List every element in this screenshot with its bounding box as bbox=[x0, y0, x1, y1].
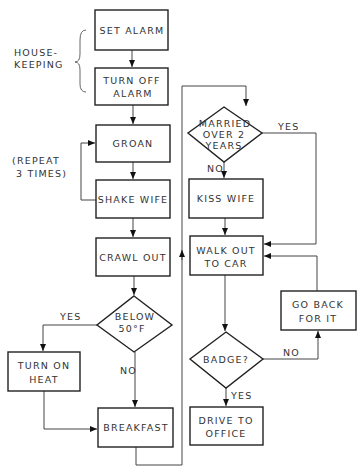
flowchart: HOUSE- KEEPING (REPEAT 3 TIMES) SET ALAR… bbox=[0, 0, 364, 474]
repeat-annotation: (REPEAT 3 TIMES) bbox=[12, 155, 67, 179]
node-kiss-wife: KISS WIFE bbox=[189, 179, 263, 218]
svg-text:BREAKFAST: BREAKFAST bbox=[103, 422, 169, 433]
decision-married: MARRIED OVER 2 YEARS bbox=[188, 107, 262, 162]
node-drive-to-office: DRIVE TO OFFICE bbox=[190, 407, 263, 445]
node-go-back: GO BACK FOR IT bbox=[281, 291, 356, 330]
node-groan: GROAN bbox=[96, 125, 170, 162]
svg-text:BADGE?: BADGE? bbox=[203, 354, 249, 365]
svg-text:OFFICE: OFFICE bbox=[205, 428, 246, 439]
svg-text:CRAWL OUT: CRAWL OUT bbox=[99, 252, 167, 263]
decision-badge: BADGE? bbox=[190, 332, 263, 388]
svg-text:WALK OUT: WALK OUT bbox=[196, 245, 256, 256]
svg-text:TURN ON: TURN ON bbox=[17, 360, 70, 371]
label-below-no: NO bbox=[120, 365, 137, 376]
node-set-alarm: SET ALARM bbox=[95, 10, 168, 50]
svg-text:50°F: 50°F bbox=[118, 323, 145, 334]
housekeeping-annotation: HOUSE- KEEPING bbox=[14, 30, 86, 92]
label-below-yes: YES bbox=[59, 311, 81, 322]
svg-text:OVER 2: OVER 2 bbox=[203, 129, 246, 140]
housekeeping-label-2: KEEPING bbox=[14, 59, 64, 70]
label-married-no: NO bbox=[207, 163, 224, 174]
svg-text:GO BACK: GO BACK bbox=[292, 299, 344, 310]
svg-text:BELOW: BELOW bbox=[115, 311, 155, 322]
repeat-label-2: 3 TIMES) bbox=[16, 168, 67, 179]
decision-below-50f: BELOW 50°F bbox=[97, 296, 172, 352]
node-shake-wife: SHAKE WIFE bbox=[96, 180, 170, 218]
svg-text:MARRIED: MARRIED bbox=[199, 118, 251, 129]
svg-text:FOR IT: FOR IT bbox=[299, 313, 337, 324]
repeat-label-1: (REPEAT bbox=[12, 155, 60, 166]
svg-text:SET ALARM: SET ALARM bbox=[100, 25, 165, 36]
svg-text:GROAN: GROAN bbox=[113, 138, 154, 149]
edge-married-yes bbox=[262, 133, 316, 244]
node-turn-on-heat: TURN ON HEAT bbox=[8, 352, 80, 391]
label-badge-no: NO bbox=[283, 347, 300, 358]
edge-repeat-loop bbox=[81, 143, 96, 200]
edge-heat-to-breakfast bbox=[44, 391, 97, 429]
edge-below-yes bbox=[43, 325, 97, 351]
svg-text:TO CAR: TO CAR bbox=[203, 258, 247, 269]
housekeeping-label-1: HOUSE- bbox=[14, 47, 58, 58]
svg-text:ALARM: ALARM bbox=[113, 88, 152, 99]
node-crawl-out: CRAWL OUT bbox=[96, 238, 170, 276]
svg-text:YEARS: YEARS bbox=[205, 140, 243, 151]
node-breakfast: BREAKFAST bbox=[98, 408, 173, 447]
label-badge-yes: YES bbox=[230, 390, 252, 401]
svg-text:TURN OFF: TURN OFF bbox=[102, 75, 161, 86]
svg-text:SHAKE WIFE: SHAKE WIFE bbox=[98, 194, 169, 205]
svg-text:KISS WIFE: KISS WIFE bbox=[197, 193, 256, 204]
svg-text:HEAT: HEAT bbox=[29, 374, 59, 385]
label-married-yes: YES bbox=[277, 121, 299, 132]
node-walk-out: WALK OUT TO CAR bbox=[190, 236, 263, 275]
node-turn-off-alarm: TURN OFF ALARM bbox=[95, 68, 168, 105]
svg-text:DRIVE TO: DRIVE TO bbox=[198, 415, 253, 426]
edge-goback-to-walk bbox=[264, 256, 317, 291]
